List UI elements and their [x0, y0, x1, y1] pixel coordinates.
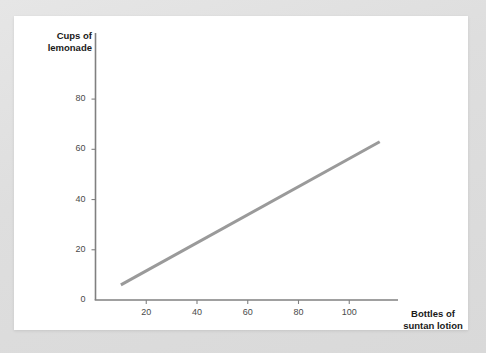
x-tick-label: 80	[286, 307, 312, 317]
y-tick-label: 0	[60, 294, 86, 304]
axes-group	[95, 33, 398, 300]
screenshot-root: Cups of lemonade Bottles of suntan lotio…	[0, 0, 486, 353]
x-tick-label: 40	[184, 307, 210, 317]
y-tick-label: 80	[60, 93, 86, 103]
y-tick-label: 60	[60, 143, 86, 153]
chart-plot-area: Cups of lemonade Bottles of suntan lotio…	[14, 16, 468, 330]
x-tick-label: 60	[235, 307, 261, 317]
ticks-group	[92, 99, 350, 304]
chart-card: Cups of lemonade Bottles of suntan lotio…	[14, 16, 468, 330]
y-tick-label: 20	[60, 244, 86, 254]
y-tick-label: 40	[60, 194, 86, 204]
x-tick-label: 100	[336, 307, 362, 317]
data-series-group	[121, 142, 380, 285]
data-line	[121, 142, 380, 285]
x-tick-label: 20	[133, 307, 159, 317]
chart-svg	[14, 16, 468, 330]
